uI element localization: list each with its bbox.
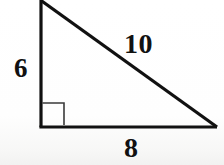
side-label-horizontal: 8 bbox=[124, 134, 138, 162]
right-triangle-figure: 6 10 8 bbox=[0, 0, 224, 165]
right-angle-marker-icon bbox=[42, 103, 64, 125]
side-label-vertical: 6 bbox=[14, 55, 28, 82]
side-label-hypotenuse: 10 bbox=[124, 30, 153, 58]
triangle-drawing bbox=[0, 0, 224, 165]
triangle-side-hypotenuse bbox=[41, 1, 217, 128]
